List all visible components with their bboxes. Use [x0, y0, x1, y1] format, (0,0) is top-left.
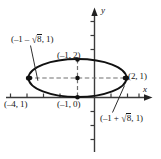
label-focus-left-radicand: 8	[37, 34, 42, 44]
sqrt-icon: √8	[121, 113, 131, 123]
label-vertex-left: (–4, 1)	[4, 100, 27, 109]
label-focus-right-radicand: 8	[126, 113, 131, 123]
y-axis	[91, 8, 98, 153]
label-focus-right: (–1 + √8, 1)	[100, 113, 143, 123]
label-vertex-right: (2, 1)	[128, 72, 147, 81]
point-focus-left	[28, 76, 33, 81]
axis-label-y: y	[101, 6, 105, 15]
axis-label-x: x	[143, 85, 147, 94]
point-center	[75, 76, 80, 81]
x-axis-arrow	[144, 94, 153, 100]
label-covertex-top: (–1, 2)	[57, 51, 80, 60]
label-focus-right-prefix: (–1 +	[100, 113, 121, 123]
label-focus-left-prefix: (–1 –	[11, 34, 31, 44]
label-focus-right-suffix: , 1)	[131, 113, 143, 123]
point-focus-right	[123, 76, 128, 81]
label-focus-left: (–1 – √8, 1)	[11, 34, 53, 44]
label-covertex-bottom: (–1, 0)	[57, 100, 80, 109]
ellipse-figure: (–1 – √8, 1) (–1, 2) (2, 1) (–4, 1) (–1,…	[0, 0, 161, 159]
sqrt-icon: √8	[31, 34, 41, 44]
label-focus-left-suffix: , 1)	[42, 34, 54, 44]
y-axis-arrow	[91, 8, 97, 17]
leader-line-focus-left	[30, 46, 39, 81]
